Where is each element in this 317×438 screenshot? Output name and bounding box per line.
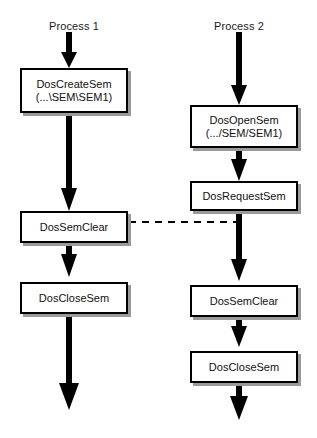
column-title-process-1: Process 1 (44, 20, 104, 32)
arrow-p1-semclear-to-closesem (61, 243, 77, 277)
node-dos-create-sem[interactable]: DosCreateSem (...\SEM\SEM1) (20, 68, 128, 113)
node-p1-dos-sem-clear[interactable]: DosSemClear (20, 211, 128, 243)
column-title-process-2: Process 2 (209, 20, 269, 32)
arrow-p2-semclear-to-closesem (231, 317, 247, 347)
arrow-p1-entry (61, 32, 77, 68)
node-label-line1: DosCloseSem (39, 292, 109, 305)
semaphore-flow-diagram: Process 1 Process 2 DosCreateSem (...\SE… (0, 0, 317, 438)
node-label-line1: DosOpenSem (209, 114, 278, 127)
node-p2-dos-sem-clear[interactable]: DosSemClear (190, 285, 298, 317)
arrow-p1-exit (59, 314, 79, 410)
node-label-line1: DosSemClear (40, 221, 108, 234)
node-label-line1: DosCreateSem (36, 78, 111, 91)
node-label-line1: DosCloseSem (209, 361, 279, 374)
node-label-line1: DosSemClear (210, 295, 278, 308)
node-dos-request-sem[interactable]: DosRequestSem (190, 181, 298, 211)
node-dos-open-sem[interactable]: DosOpenSem (.../SEM/SEM1) (190, 105, 298, 148)
node-label-line2: (.../SEM/SEM1) (206, 127, 282, 140)
node-p1-dos-close-sem[interactable]: DosCloseSem (20, 282, 128, 314)
arrow-p2-open-to-request (231, 148, 247, 181)
node-label-line2: (...\SEM\SEM1) (36, 91, 112, 104)
arrow-p2-exit (230, 383, 248, 420)
arrow-p1-create-to-semclear (61, 113, 77, 211)
node-p2-dos-close-sem[interactable]: DosCloseSem (190, 351, 298, 383)
arrow-p2-entry (231, 32, 247, 105)
node-label-line1: DosRequestSem (202, 190, 285, 203)
